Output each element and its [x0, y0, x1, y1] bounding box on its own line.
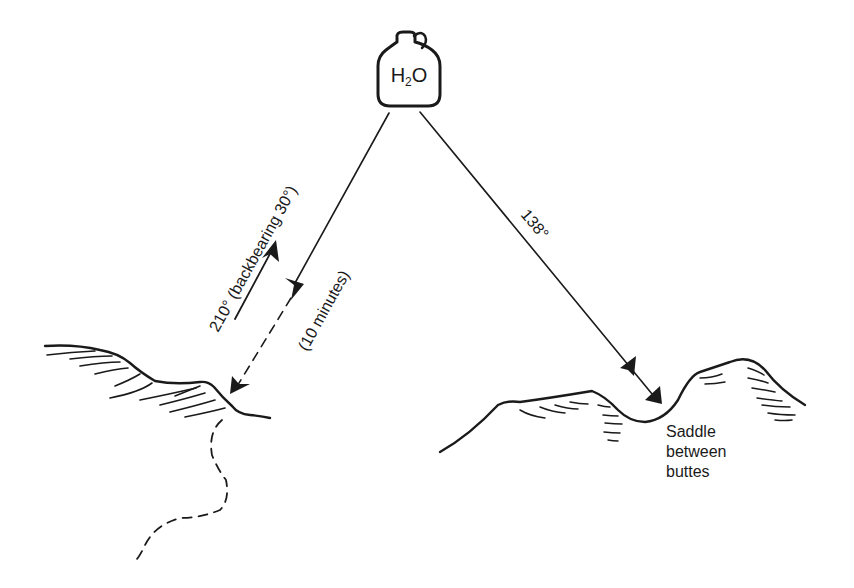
- buttes: [440, 359, 805, 452]
- bearing-210-label: 210° (backbearing 30°): [206, 183, 300, 335]
- bearing-line-138: [420, 112, 657, 400]
- arrowhead-end-left-icon: [230, 376, 250, 394]
- water-jug-icon: H2O: [378, 32, 440, 106]
- saddle-label: Saddle between buttes: [666, 423, 731, 480]
- trail-path: [135, 420, 227, 560]
- navigation-diagram: H2O: [0, 0, 854, 588]
- duration-label: (10 minutes): [295, 267, 353, 353]
- jug-label: H2O: [391, 64, 428, 89]
- bearing-line-210-dashed: [236, 298, 291, 388]
- arrowhead-mid-left-icon: [285, 278, 304, 300]
- bearing-line-210: [295, 113, 389, 283]
